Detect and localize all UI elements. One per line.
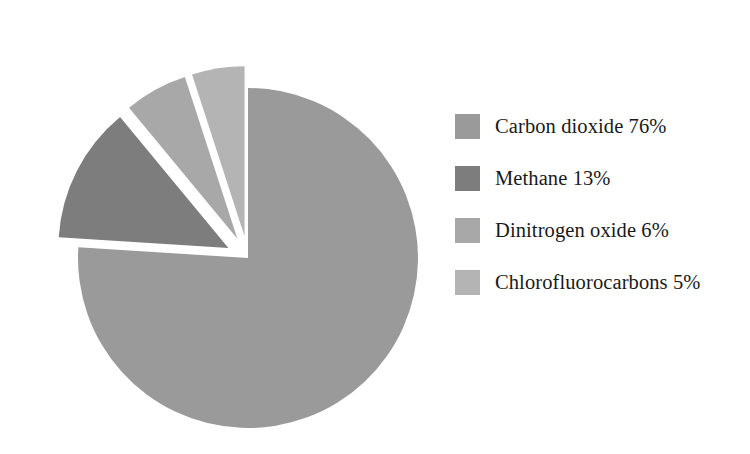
- legend-color-swatch: [455, 218, 480, 243]
- legend-item-label: Methane 13%: [495, 167, 611, 190]
- legend-item[interactable]: Methane 13%: [455, 152, 745, 204]
- chart-legend: Carbon dioxide 76%Methane 13%Dinitrogen …: [455, 100, 745, 308]
- legend-color-swatch: [455, 166, 480, 191]
- pie-chart-canvas: [0, 0, 450, 454]
- legend-item[interactable]: Carbon dioxide 76%: [455, 100, 745, 152]
- legend-item-label: Dinitrogen oxide 6%: [495, 219, 669, 242]
- legend-item[interactable]: Chlorofluorocarbons 5%: [455, 256, 745, 308]
- legend-color-swatch: [455, 114, 480, 139]
- pie-slice-group: [59, 66, 418, 428]
- legend-item-label: Chlorofluorocarbons 5%: [495, 271, 700, 294]
- legend-item-label: Carbon dioxide 76%: [495, 115, 666, 138]
- pie-chart-figure: Carbon dioxide 76%Methane 13%Dinitrogen …: [0, 0, 750, 454]
- legend-item[interactable]: Dinitrogen oxide 6%: [455, 204, 745, 256]
- legend-color-swatch: [455, 270, 480, 295]
